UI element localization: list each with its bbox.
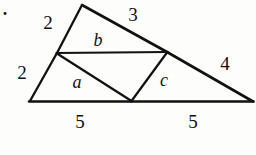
label-segment-b: b bbox=[94, 31, 103, 49]
item-number: . bbox=[3, 0, 8, 18]
segment-left-upper bbox=[57, 5, 82, 53]
label-side-upper-left: 2 bbox=[43, 13, 53, 32]
label-side-lower-left: 2 bbox=[17, 63, 27, 82]
label-segment-c: c bbox=[160, 71, 168, 89]
label-side-right: 4 bbox=[220, 54, 230, 73]
segment-b-midline bbox=[57, 52, 168, 53]
segment-a-diagonal bbox=[57, 54, 132, 102]
label-base-left: 5 bbox=[75, 112, 85, 131]
label-segment-a: a bbox=[73, 73, 82, 91]
segment-hypotenuse-lower bbox=[167, 52, 253, 102]
segment-left-lower bbox=[30, 53, 57, 101]
label-side-top-right: 3 bbox=[128, 5, 138, 24]
geometry-figure: . 2 2 3 4 5 5 a b c bbox=[0, 0, 256, 155]
label-base-right: 5 bbox=[188, 112, 198, 131]
